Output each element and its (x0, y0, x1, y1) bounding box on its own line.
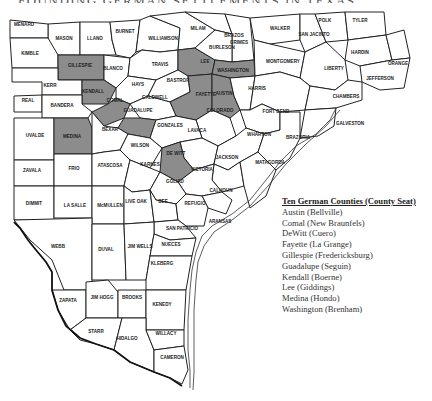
svg-text:WASHINGTON: WASHINGTON (217, 68, 249, 73)
svg-text:CALHOUN: CALHOUN (210, 188, 234, 193)
svg-text:WILLACY: WILLACY (156, 331, 177, 336)
svg-text:BRAZORIA: BRAZORIA (286, 135, 311, 140)
svg-text:KIMBLE: KIMBLE (21, 51, 39, 56)
svg-text:UVALDE: UVALDE (26, 133, 45, 138)
svg-text:BRAZOS: BRAZOS (224, 33, 243, 38)
svg-text:CHAMBERS: CHAMBERS (333, 94, 360, 99)
svg-text:SAN PATRICIO: SAN PATRICIO (166, 226, 199, 231)
svg-text:LEE: LEE (201, 59, 210, 64)
svg-text:KARNES: KARNES (140, 162, 159, 167)
svg-text:BEE: BEE (158, 199, 167, 204)
svg-text:ORANGE: ORANGE (388, 61, 408, 66)
svg-text:HAYS: HAYS (132, 82, 144, 87)
svg-text:GOLIAD: GOLIAD (166, 179, 185, 184)
svg-text:MATAGORDA: MATAGORDA (255, 160, 285, 165)
svg-text:McMULLEN: McMULLEN (97, 203, 123, 208)
svg-text:LIVE OAK: LIVE OAK (125, 199, 147, 204)
county-la-salle[interactable] (54, 186, 92, 218)
legend-item: Lee (Giddings) (282, 282, 416, 293)
svg-text:FRIO: FRIO (69, 166, 80, 171)
svg-text:KENEDY: KENEDY (152, 302, 171, 307)
svg-text:MONTGOMERY: MONTGOMERY (266, 59, 300, 64)
svg-text:ATASCOSA: ATASCOSA (97, 163, 123, 168)
svg-text:WILSON: WILSON (131, 143, 150, 148)
svg-text:COLORADO: COLORADO (207, 108, 234, 113)
svg-text:FORT BEND: FORT BEND (263, 109, 290, 114)
svg-text:BASTROP: BASTROP (167, 78, 189, 83)
svg-text:TRAVIS: TRAVIS (152, 62, 169, 67)
svg-text:KENDALL: KENDALL (82, 89, 104, 94)
svg-text:TYLER: TYLER (352, 18, 368, 23)
svg-text:LIBERTY: LIBERTY (324, 66, 344, 71)
svg-text:KERR: KERR (43, 83, 57, 88)
svg-text:BURLESON: BURLESON (209, 45, 235, 50)
svg-text:POLK: POLK (319, 18, 332, 23)
legend-item: Gillespie (Fredericksburg) (282, 250, 416, 261)
svg-text:WALKER: WALKER (270, 26, 291, 31)
svg-text:LAVACA: LAVACA (188, 128, 207, 133)
svg-text:JIM WELLS: JIM WELLS (127, 244, 152, 249)
svg-text:COMAL: COMAL (107, 98, 124, 103)
county-zavala[interactable] (14, 160, 54, 186)
svg-text:GALVESTON: GALVESTON (336, 121, 365, 126)
svg-text:CAMERON: CAMERON (160, 355, 184, 360)
legend-item: Kendall (Boerne) (282, 272, 416, 283)
svg-text:LLANO: LLANO (87, 36, 103, 41)
svg-text:REAL: REAL (22, 98, 35, 103)
svg-text:DUVAL: DUVAL (98, 247, 114, 252)
svg-text:HIDALGO: HIDALGO (116, 336, 138, 341)
svg-text:KLEBERG: KLEBERG (151, 261, 174, 266)
svg-text:DE WITT: DE WITT (167, 151, 186, 156)
svg-text:AUSTIN: AUSTIN (215, 91, 233, 96)
svg-text:BEXAR: BEXAR (102, 127, 119, 132)
svg-text:GUADALUPE: GUADALUPE (123, 108, 152, 113)
svg-text:BANDERA: BANDERA (51, 103, 75, 108)
svg-text:NUECES: NUECES (161, 242, 180, 247)
svg-text:BROOKS: BROOKS (122, 295, 142, 300)
county-refugio[interactable] (176, 194, 208, 226)
county-live-oak[interactable] (124, 186, 154, 224)
svg-text:GILLESPIE: GILLESPIE (68, 63, 92, 68)
svg-text:MILAM: MILAM (190, 26, 205, 31)
legend-item: Austin (Bellville) (282, 207, 416, 218)
legend: Ten German Counties (County Seat) Austin… (282, 196, 416, 315)
legend-item: Fayette (La Grange) (282, 239, 416, 250)
svg-text:WEBB: WEBB (51, 244, 66, 249)
svg-text:MASON: MASON (55, 36, 73, 41)
svg-text:ZAVALA: ZAVALA (23, 168, 42, 173)
county-uvalde[interactable] (14, 118, 54, 160)
county-kenedy[interactable] (146, 290, 186, 330)
county-duval[interactable] (92, 224, 126, 280)
svg-text:CALDWELL: CALDWELL (142, 95, 168, 100)
legend-item: Guadalupe (Seguin) (282, 261, 416, 272)
legend-item: Comal (New Braunfels) (282, 218, 416, 229)
legend-heading: Ten German Counties (County Seat) (282, 196, 416, 207)
county-webb[interactable] (14, 218, 92, 290)
legend-item: Washington (Brenham) (282, 304, 416, 315)
svg-text:DIMMIT: DIMMIT (26, 201, 43, 206)
svg-text:MENARD: MENARD (14, 22, 35, 27)
svg-text:LA SALLE: LA SALLE (64, 203, 86, 208)
svg-text:JEFFERSON: JEFFERSON (366, 76, 394, 81)
svg-text:HARDIN: HARDIN (351, 50, 370, 55)
svg-text:JACKSON: JACKSON (216, 155, 239, 160)
svg-text:FAYETTE: FAYETTE (196, 92, 216, 97)
svg-text:HARRIS: HARRIS (248, 86, 266, 91)
svg-text:STARR: STARR (88, 329, 104, 334)
svg-text:ZAPATA: ZAPATA (59, 298, 77, 303)
legend-item: DeWitt (Cuero) (282, 228, 416, 239)
svg-text:JIM HOGG: JIM HOGG (91, 295, 114, 300)
svg-text:REFUGIO: REFUGIO (185, 201, 206, 206)
legend-item: Medina (Hondo) (282, 293, 416, 304)
svg-text:SAN JACINTO: SAN JACINTO (298, 32, 329, 37)
svg-text:MEDINA: MEDINA (63, 134, 82, 139)
svg-text:VICTORIA: VICTORIA (191, 167, 214, 172)
svg-text:BLANCO: BLANCO (103, 66, 123, 71)
svg-text:WILLIAMSON: WILLIAMSON (148, 36, 178, 41)
county-atascosa[interactable] (92, 150, 130, 186)
svg-text:GONZALES: GONZALES (157, 123, 183, 128)
svg-text:BURNET: BURNET (115, 29, 134, 34)
svg-text:WHARTON: WHARTON (247, 132, 272, 137)
svg-text:ARANSAS: ARANSAS (209, 219, 232, 224)
